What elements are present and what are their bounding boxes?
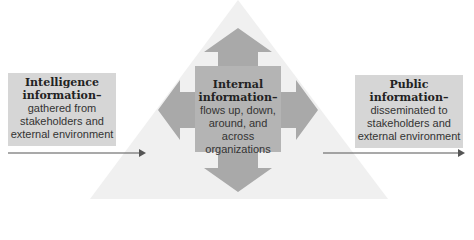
public-body-line3: external environment (355, 130, 463, 143)
intelligence-title-line1: Intelligence (8, 76, 116, 89)
intelligence-title-line2: information– (8, 89, 116, 102)
public-body-line2: stakeholders and (355, 117, 463, 130)
public-title-line1: Public (355, 78, 463, 91)
public-title-line2: information– (355, 91, 463, 104)
internal-title-line2: information– (182, 91, 294, 104)
internal-body-line2: around, and (182, 117, 294, 130)
public-information-box: Public information– disseminated to stak… (355, 75, 463, 148)
intelligence-information-box: Intelligence information– gathered from … (8, 73, 116, 146)
internal-title-line1: Internal (182, 78, 294, 91)
intelligence-body-line2: stakeholders and (8, 115, 116, 128)
internal-body-line3: across (182, 130, 294, 143)
internal-information-box: Internal information– flows up, down, ar… (182, 78, 294, 148)
internal-body-line4: organizations (182, 143, 294, 156)
public-body-line1: disseminated to (355, 104, 463, 117)
intelligence-body-line3: external environment (8, 128, 116, 141)
intelligence-body-line1: gathered from (8, 102, 116, 115)
internal-body-line1: flows up, down, (182, 104, 294, 117)
